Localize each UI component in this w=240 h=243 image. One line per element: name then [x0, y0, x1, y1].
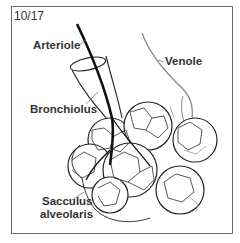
label-venole: Venole — [165, 55, 202, 68]
label-bronchiolus: Bronchiolus — [30, 103, 97, 116]
alveolar-sac-illustration — [0, 0, 240, 243]
bronchiolus-opening — [69, 54, 107, 73]
label-sacculus-line1: Sacculus — [42, 195, 93, 208]
label-sacculus-line2: alveolaris — [40, 208, 93, 221]
label-arteriole: Arteriole — [33, 39, 80, 52]
